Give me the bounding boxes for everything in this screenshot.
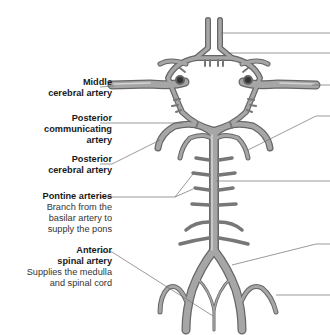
leader-pontine <box>100 174 193 197</box>
label-middle-cerebral-artery: Middle cerebral artery <box>0 77 112 99</box>
right-carotid-siphon <box>244 76 252 84</box>
leader-right-6 <box>232 244 330 265</box>
vessel-fills <box>112 20 316 330</box>
label-pontine-arteries: Pontine arteries Branch from the basilar… <box>0 191 112 235</box>
label-posterior-communicating-artery: Posterior communicating artery <box>0 113 112 146</box>
artery-diagram: Middle cerebral artery Posterior communi… <box>0 0 330 335</box>
label-posterior-cerebral-artery: Posterior cerebral artery <box>0 154 112 176</box>
label-anterior-spinal-artery: Anterior spinal artery Supplies the medu… <box>0 245 112 289</box>
left-carotid-siphon <box>176 76 184 84</box>
